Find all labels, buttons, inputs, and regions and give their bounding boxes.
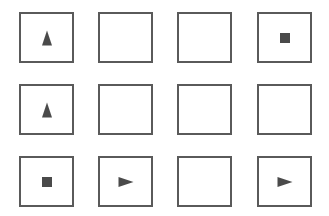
grid-cell-r2-c0 <box>19 156 74 207</box>
grid-cell-r1-c2 <box>177 84 232 135</box>
grid-cell-r0-c0 <box>19 12 74 63</box>
grid-cell-r0-c1 <box>98 12 153 63</box>
square-icon <box>280 33 290 43</box>
grid-cell-r1-c3 <box>257 84 312 135</box>
triangle-right-icon <box>118 177 133 187</box>
grid-cell-r0-c3 <box>257 12 312 63</box>
square-icon <box>42 177 52 187</box>
grid-cell-r1-c0 <box>19 84 74 135</box>
grid-cell-r2-c2 <box>177 156 232 207</box>
grid-cell-r1-c1 <box>98 84 153 135</box>
triangle-right-icon <box>277 177 292 187</box>
triangle-up-icon <box>42 102 52 117</box>
grid-cell-r0-c2 <box>177 12 232 63</box>
triangle-up-icon <box>42 30 52 45</box>
symbol-grid <box>0 0 329 216</box>
grid-cell-r2-c3 <box>257 156 312 207</box>
grid-cell-r2-c1 <box>98 156 153 207</box>
